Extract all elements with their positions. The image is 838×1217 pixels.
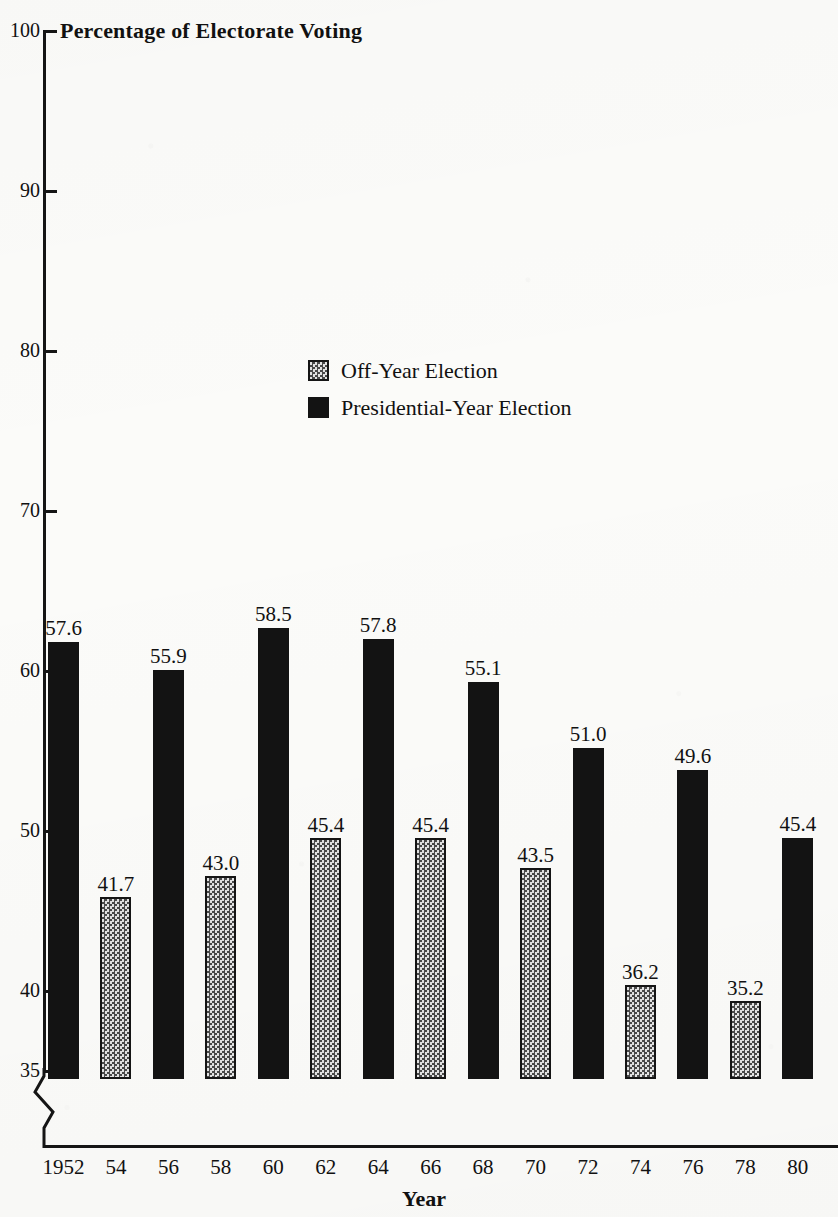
- bar-value-label: 45.4: [412, 815, 449, 836]
- plot-area: 57.641.755.943.058.545.457.845.455.143.5…: [0, 0, 838, 1148]
- legend-swatch-offyear-icon: [308, 360, 329, 381]
- x-axis-title: Year: [0, 1186, 838, 1212]
- x-axis-tick-label-80: 80: [763, 1156, 833, 1178]
- legend-item-presidential[interactable]: Presidential-Year Election: [308, 389, 572, 426]
- bar-value-label: 43.0: [202, 853, 239, 874]
- bar-60[interactable]: 58.5: [258, 628, 289, 1079]
- bar-1952[interactable]: 57.6: [48, 642, 79, 1079]
- bar-76[interactable]: 49.6: [677, 770, 708, 1079]
- bar-64[interactable]: 57.8: [363, 639, 394, 1079]
- bar-80[interactable]: 45.4: [782, 838, 813, 1079]
- chart-page: Percentage of Electorate Voting 10090807…: [0, 0, 838, 1217]
- legend-item-offyear[interactable]: Off-Year Election: [308, 352, 572, 389]
- bar-value-label: 55.1: [465, 658, 502, 679]
- legend-swatch-presidential-icon: [308, 397, 329, 418]
- bar-value-label: 45.4: [307, 815, 344, 836]
- bar-value-label: 55.9: [150, 646, 187, 667]
- bar-72[interactable]: 51.0: [573, 748, 604, 1079]
- legend-label: Off-Year Election: [341, 359, 498, 383]
- bar-value-label: 57.8: [360, 615, 397, 636]
- bar-value-label: 49.6: [675, 746, 712, 767]
- bar-56[interactable]: 55.9: [153, 670, 184, 1079]
- bar-58[interactable]: 43.0: [205, 876, 236, 1079]
- bar-value-label: 45.4: [779, 814, 816, 835]
- chart-legend: Off-Year ElectionPresidential-Year Elect…: [308, 352, 572, 426]
- bar-62[interactable]: 45.4: [310, 838, 341, 1079]
- bar-78[interactable]: 35.2: [730, 1001, 761, 1079]
- bar-value-label: 57.6: [45, 618, 82, 639]
- bar-value-label: 58.5: [255, 604, 292, 625]
- bar-68[interactable]: 55.1: [468, 682, 499, 1079]
- bar-74[interactable]: 36.2: [625, 985, 656, 1079]
- bar-value-label: 41.7: [98, 874, 135, 895]
- bar-value-label: 36.2: [622, 962, 659, 983]
- bar-70[interactable]: 43.5: [520, 868, 551, 1079]
- bar-value-label: 43.5: [517, 845, 554, 866]
- bar-value-label: 51.0: [570, 724, 607, 745]
- bar-66[interactable]: 45.4: [415, 838, 446, 1079]
- bar-54[interactable]: 41.7: [100, 897, 131, 1079]
- bar-value-label: 35.2: [727, 978, 764, 999]
- x-axis-title-label: Year: [402, 1186, 446, 1211]
- legend-label: Presidential-Year Election: [341, 396, 572, 420]
